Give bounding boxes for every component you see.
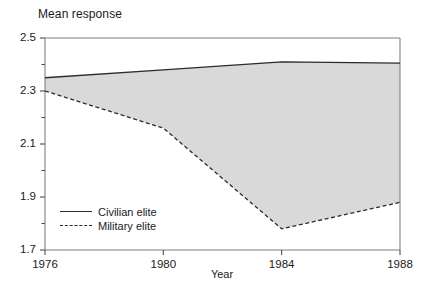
legend-item-civilian-elite: Civilian elite bbox=[60, 205, 157, 219]
legend-item-military-elite: Military elite bbox=[60, 219, 157, 233]
legend-line-solid-icon bbox=[60, 207, 92, 217]
chart-figure: Mean response 2.52.32.11.91.7 1976198019… bbox=[0, 0, 422, 294]
y-axis-title: Mean response bbox=[38, 7, 122, 21]
y-axis-tick-label: 1.9 bbox=[2, 190, 36, 202]
plot-area bbox=[0, 0, 422, 294]
legend-line-dashed-icon bbox=[60, 221, 92, 231]
y-axis-tick-label: 2.3 bbox=[2, 84, 36, 96]
y-axis-tick-label: 2.1 bbox=[2, 137, 36, 149]
legend-label-civilian-elite: Civilian elite bbox=[98, 205, 157, 219]
legend-label-military-elite: Military elite bbox=[98, 219, 156, 233]
y-axis-tick-label: 2.5 bbox=[2, 31, 36, 43]
y-axis-tick-label: 1.7 bbox=[2, 243, 36, 255]
chart-legend: Civilian elite Military elite bbox=[60, 205, 157, 233]
area-fill-between-series bbox=[45, 62, 400, 229]
x-axis-title: Year bbox=[0, 268, 422, 280]
